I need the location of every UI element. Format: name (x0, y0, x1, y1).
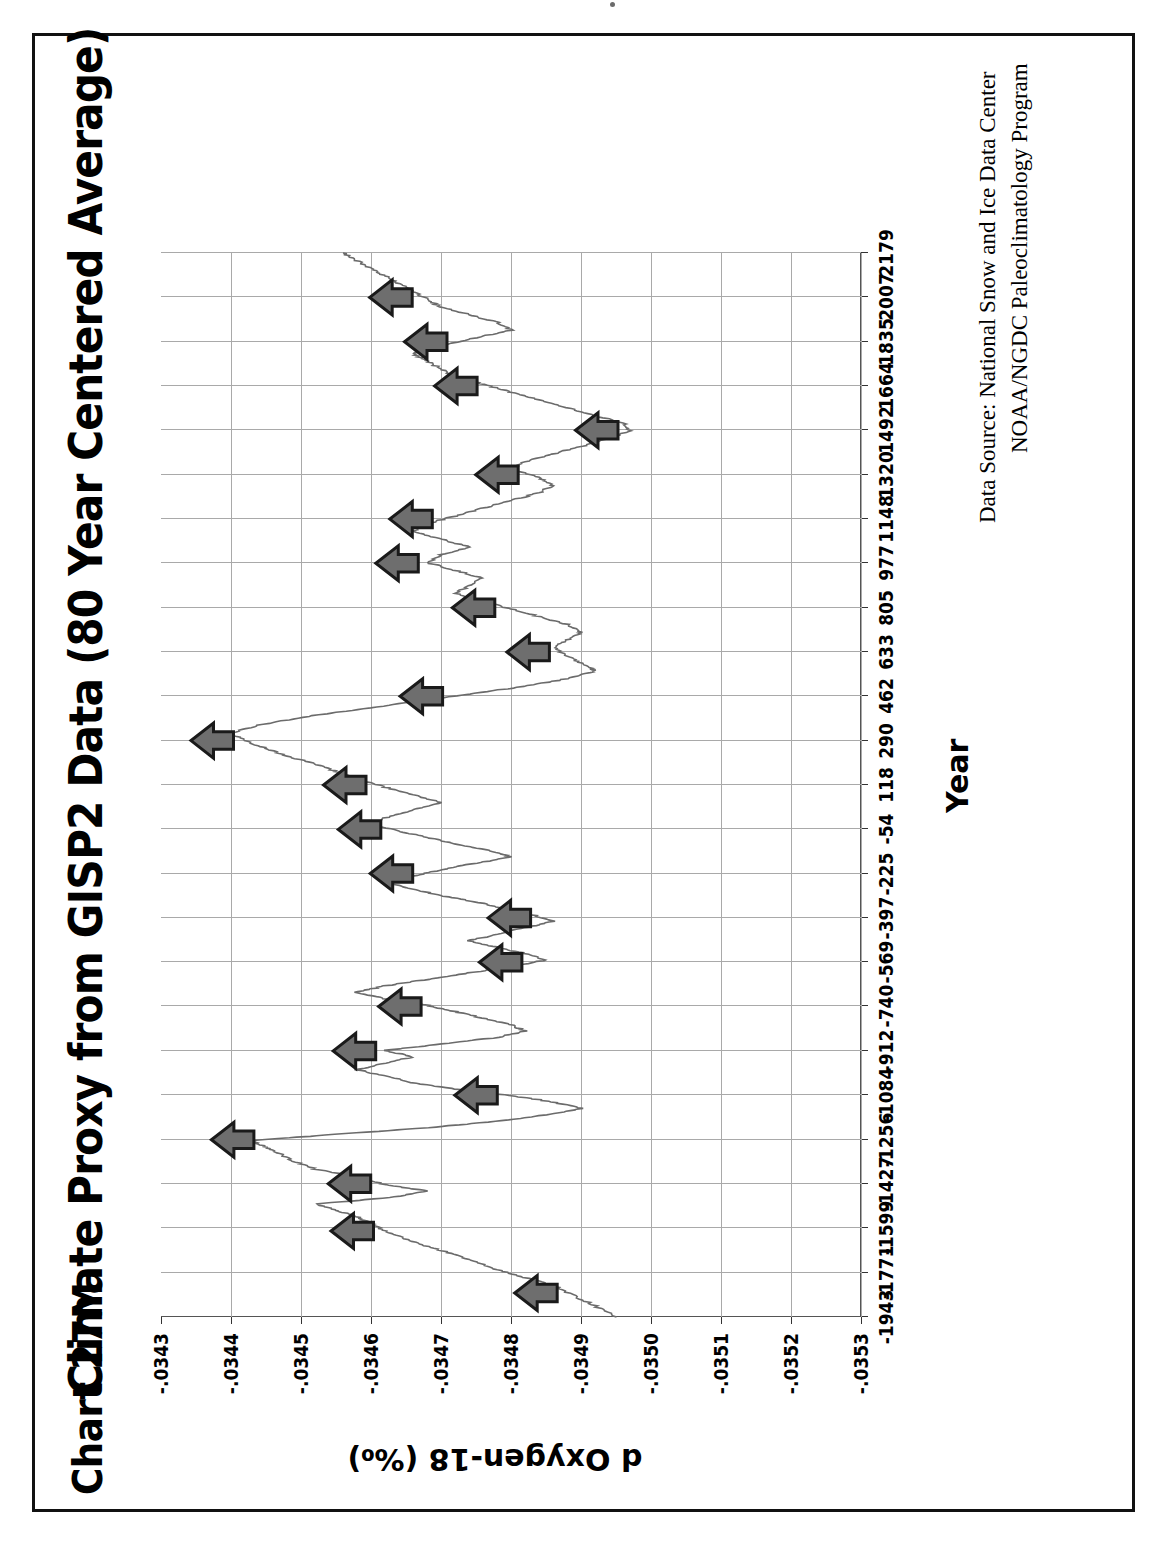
x-axis-tick-label: 290 (875, 723, 897, 759)
plot-area (161, 253, 861, 1317)
y-axis-tick-label: -.0344 (220, 1333, 242, 1394)
x-axis-tick (861, 518, 868, 519)
x-axis-tick-label: 1148 (875, 495, 897, 543)
x-axis-tick-label: -225 (875, 852, 897, 895)
warm-peak-arrow-icon (331, 1214, 374, 1249)
warm-peak-arrow-icon (379, 989, 422, 1024)
warm-peak-arrow-icon (333, 1033, 376, 1068)
y-axis-tick (581, 1317, 582, 1324)
x-axis-tick-label: -740 (875, 985, 897, 1028)
y-axis-tick (231, 1317, 232, 1324)
x-axis-tick-label: -1084 (875, 1068, 897, 1123)
warm-peak-arrow-icon (400, 679, 443, 714)
y-axis-tick (721, 1317, 722, 1324)
warm-peak-arrow-icon (515, 1276, 558, 1311)
x-axis-tick (861, 607, 868, 608)
x-axis-tick (861, 784, 868, 785)
y-axis-tick-label: -.0353 (850, 1333, 872, 1394)
x-axis-tick (861, 1050, 868, 1051)
y-axis-tick (511, 1317, 512, 1324)
x-axis-tick (861, 695, 868, 696)
gridline-horizontal (861, 253, 862, 1317)
x-axis-tick-label: 1320 (875, 451, 897, 499)
data-source-line-1: Data Source: National Snow and Ice Data … (975, 71, 1001, 523)
x-axis-tick (861, 1139, 868, 1140)
annotation-arrow-layer (161, 253, 861, 1317)
x-axis-tick-label: 1492 (875, 407, 897, 455)
x-axis-tick (861, 385, 868, 386)
x-axis-tick (861, 740, 868, 741)
warm-peak-arrow-icon (476, 457, 519, 492)
warm-peak-arrow-icon (191, 723, 234, 758)
x-axis-tick-label: 805 (875, 590, 897, 626)
x-axis-tick (861, 296, 868, 297)
x-axis-tick (861, 1316, 868, 1317)
warm-peak-arrow-icon (370, 280, 413, 315)
x-axis-tick-label: 633 (875, 634, 897, 670)
warm-peak-arrow-icon (576, 413, 619, 448)
warm-peak-arrow-icon (211, 1122, 254, 1157)
x-axis-tick (861, 1094, 868, 1095)
scanned-page: Chart 27M Climate Proxy from GISP2 Data … (0, 0, 1167, 1545)
x-axis-tick-label: 462 (875, 678, 897, 714)
y-axis-tick (371, 1317, 372, 1324)
x-axis-tick-label: -912 (875, 1029, 897, 1072)
x-axis-tick (861, 429, 868, 430)
warm-peak-arrow-icon (507, 635, 550, 670)
x-axis-tick-label: 1664 (875, 362, 897, 410)
y-axis-tick (441, 1317, 442, 1324)
y-axis-tick-label: -.0343 (150, 1333, 172, 1394)
x-axis-tick (861, 1272, 868, 1273)
scan-speck (610, 2, 615, 7)
x-axis-tick (861, 252, 868, 253)
x-axis-tick (861, 341, 868, 342)
x-axis-tick-label: 1835 (875, 318, 897, 366)
x-axis-tick (861, 961, 868, 962)
y-axis-tick-label: -.0348 (500, 1333, 522, 1394)
x-axis-tick (861, 562, 868, 563)
x-axis-tick (861, 1227, 868, 1228)
x-axis-tick-label: -397 (875, 897, 897, 940)
chart-title: Climate Proxy from GISP2 Data (80 Year C… (59, 309, 113, 1395)
data-source-line-2: NOAA/NGDC Paleoclimatology Program (1007, 63, 1033, 453)
warm-peak-arrow-icon (405, 324, 448, 359)
y-axis-tick-label: -.0345 (290, 1333, 312, 1394)
warm-peak-arrow-icon (390, 502, 433, 537)
x-axis-tick-label: -54 (875, 814, 897, 845)
y-axis-tick-label: -.0349 (570, 1333, 592, 1394)
x-axis-tick (861, 1183, 868, 1184)
x-axis-tick (861, 873, 868, 874)
warm-peak-arrow-icon (435, 368, 478, 403)
x-axis-tick-label: 118 (875, 767, 897, 803)
warm-peak-arrow-icon (488, 900, 530, 935)
x-axis-tick (861, 917, 868, 918)
warm-peak-arrow-icon (455, 1078, 498, 1113)
warm-peak-arrow-icon (328, 1166, 371, 1201)
x-axis-tick (861, 474, 868, 475)
y-axis-tick-label: -.0347 (430, 1333, 452, 1394)
x-axis-tick (861, 1005, 868, 1006)
warm-peak-arrow-icon (370, 856, 413, 891)
y-axis-tick (791, 1317, 792, 1324)
x-axis-tick (861, 828, 868, 829)
y-axis-tick (161, 1317, 162, 1324)
warm-peak-arrow-icon (452, 590, 495, 625)
y-axis-title: d Oxygen-18 (‰) (348, 1442, 643, 1477)
warm-peak-arrow-icon (479, 945, 522, 980)
x-axis-tick (861, 651, 868, 652)
x-axis-tick-label: -569 (875, 941, 897, 984)
x-axis-tick-label: 977 (875, 545, 897, 581)
y-axis-tick-label: -.0352 (780, 1333, 802, 1394)
y-axis-tick-label: -.0351 (710, 1333, 732, 1394)
warm-peak-arrow-icon (324, 768, 367, 803)
y-axis-tick (301, 1317, 302, 1324)
warm-peak-arrow-icon (376, 546, 419, 581)
x-axis-tick-label: 2179 (875, 229, 897, 277)
x-axis-title: Year (940, 739, 975, 813)
y-axis-tick (651, 1317, 652, 1324)
rotated-chart-canvas: Chart 27M Climate Proxy from GISP2 Data … (35, 73, 1075, 1513)
warm-peak-arrow-icon (338, 812, 381, 847)
x-axis-tick-label: 2007 (875, 274, 897, 322)
y-axis-tick-label: -.0346 (360, 1333, 382, 1394)
y-axis-tick-label: -.0350 (640, 1333, 662, 1394)
